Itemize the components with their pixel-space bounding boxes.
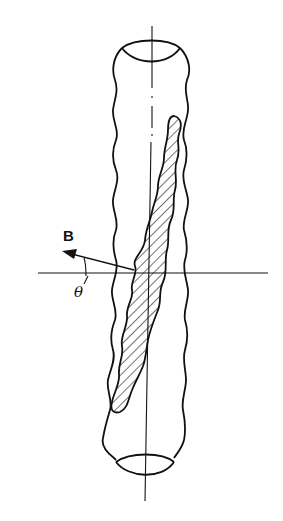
label-b: B: [63, 227, 74, 244]
label-theta: θ: [74, 283, 83, 301]
b-vector-arrow: [62, 249, 134, 270]
top-ellipse: [122, 41, 180, 62]
diagram: B θ: [0, 0, 283, 521]
theta-arc: [84, 258, 88, 284]
hatched-band: [111, 116, 180, 413]
